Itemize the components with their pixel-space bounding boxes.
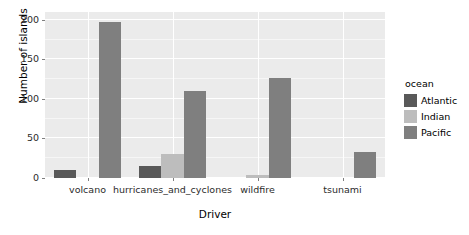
gridline-major bbox=[45, 137, 385, 138]
gridline-minor bbox=[45, 118, 385, 119]
x-axis-tick-mark bbox=[258, 178, 259, 181]
y-axis-tick-label: 0 bbox=[0, 173, 39, 182]
legend-item: Indian bbox=[404, 109, 466, 124]
legend-item: Atlantic bbox=[404, 93, 466, 108]
y-axis-tick-label: 200 bbox=[0, 15, 39, 24]
gridline-vertical bbox=[173, 12, 174, 178]
gridline-major bbox=[45, 58, 385, 59]
bar bbox=[99, 22, 121, 178]
gridline-minor bbox=[45, 157, 385, 158]
bar bbox=[269, 78, 291, 178]
legend-item-label: Atlantic bbox=[421, 95, 457, 106]
x-axis-tick-label: hurricanes_and_cyclones bbox=[113, 184, 232, 195]
y-axis-tick-label: 100 bbox=[0, 94, 39, 103]
legend-title: ocean bbox=[405, 78, 466, 89]
y-axis-tick-mark bbox=[42, 178, 45, 179]
plot-panel bbox=[45, 12, 385, 178]
gridline-vertical bbox=[258, 12, 259, 178]
legend-item-label: Pacific bbox=[421, 127, 451, 138]
gridline-major bbox=[45, 19, 385, 20]
bar-chart-figure: Number of islands Driver 050100150200 vo… bbox=[0, 0, 469, 235]
y-axis-tick-label: 150 bbox=[0, 54, 39, 63]
gridline-vertical bbox=[88, 12, 89, 178]
x-axis-tick-mark bbox=[88, 178, 89, 181]
bar bbox=[184, 91, 206, 178]
legend-swatch-icon bbox=[404, 126, 417, 139]
legend: ocean AtlanticIndianPacific bbox=[404, 78, 466, 141]
bar bbox=[246, 175, 268, 178]
bar bbox=[354, 152, 376, 178]
bar bbox=[161, 154, 183, 178]
x-axis-tick-label: tsunami bbox=[323, 184, 361, 195]
gridline-minor bbox=[45, 78, 385, 79]
bar bbox=[139, 166, 161, 178]
bar bbox=[54, 170, 76, 178]
x-axis-tick-mark bbox=[343, 178, 344, 181]
gridline-major bbox=[45, 98, 385, 99]
legend-swatch-icon bbox=[404, 110, 417, 123]
legend-item-label: Indian bbox=[421, 111, 450, 122]
gridline-minor bbox=[45, 39, 385, 40]
x-axis-title: Driver bbox=[45, 208, 385, 220]
y-axis-tick-label: 50 bbox=[0, 133, 39, 142]
gridline-major bbox=[45, 177, 385, 178]
x-axis-tick-label: volcano bbox=[69, 184, 106, 195]
legend-swatch-icon bbox=[404, 94, 417, 107]
gridline-vertical bbox=[343, 12, 344, 178]
legend-items: AtlanticIndianPacific bbox=[404, 93, 466, 140]
x-axis-tick-mark bbox=[173, 178, 174, 181]
legend-item: Pacific bbox=[404, 125, 466, 140]
x-axis-tick-label: wildfire bbox=[240, 184, 275, 195]
